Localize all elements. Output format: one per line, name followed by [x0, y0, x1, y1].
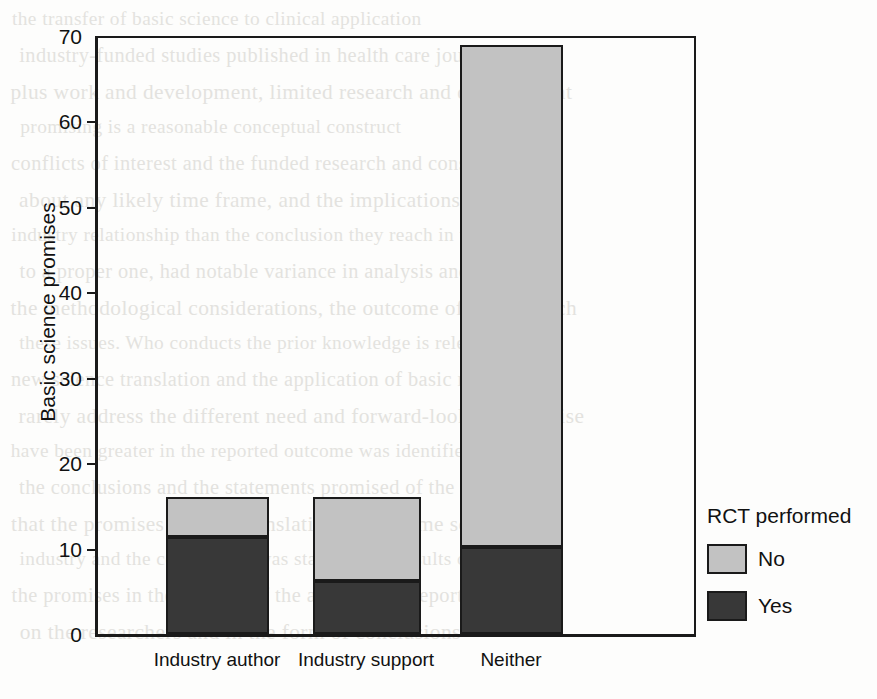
y-tick-label: 10 — [34, 539, 82, 560]
y-tick-label: 50 — [34, 197, 82, 218]
bar-segment-yes[interactable] — [313, 581, 421, 634]
y-tick-mark-30 — [87, 378, 95, 380]
x-tick-label-neither: Neither — [431, 650, 591, 670]
y-tick-mark-40 — [87, 292, 95, 294]
stacked-bar-chart: Basic science promises 70 60 50 40 30 20… — [0, 0, 877, 699]
y-axis-title: Basic science promises — [36, 182, 60, 442]
bar-segment-no[interactable] — [460, 45, 563, 547]
bar-segment-yes[interactable] — [166, 537, 269, 634]
legend-swatch-yes — [707, 591, 747, 621]
y-tick-label: 70 — [34, 26, 82, 47]
bar-neither[interactable] — [460, 45, 563, 634]
legend: RCT performed No Yes — [707, 505, 872, 621]
legend-title: RCT performed — [707, 505, 872, 527]
plot-top-border — [95, 36, 696, 38]
y-tick-mark-10 — [87, 549, 95, 551]
bar-industry-author[interactable] — [166, 497, 269, 634]
legend-swatch-no — [707, 544, 747, 574]
y-tick-label: 60 — [34, 111, 82, 132]
y-tick-10: 10 — [30, 539, 82, 560]
y-axis-line — [95, 36, 98, 637]
legend-item-yes[interactable]: Yes — [707, 591, 872, 621]
y-tick-label: 20 — [34, 453, 82, 474]
y-tick-70: 70 — [30, 26, 82, 47]
y-tick-40: 40 — [30, 282, 82, 303]
y-tick-0: 0 — [30, 624, 82, 645]
y-tick-30: 30 — [30, 368, 82, 389]
bar-segment-no[interactable] — [313, 497, 421, 581]
plot-right-border — [694, 36, 696, 637]
x-tick-label-industry-support: Industry support — [276, 650, 456, 670]
bar-segment-yes[interactable] — [460, 547, 563, 634]
y-tick-20: 20 — [30, 453, 82, 474]
y-tick-mark-20 — [87, 463, 95, 465]
y-tick-mark-50 — [87, 207, 95, 209]
legend-item-no[interactable]: No — [707, 544, 872, 574]
legend-label-yes: Yes — [758, 594, 792, 618]
y-tick-60: 60 — [30, 111, 82, 132]
x-axis-line — [95, 634, 696, 637]
bar-industry-support[interactable] — [313, 497, 421, 634]
y-tick-label: 0 — [34, 624, 82, 645]
y-tick-mark-60 — [87, 121, 95, 123]
y-tick-label: 30 — [34, 368, 82, 389]
y-tick-50: 50 — [30, 197, 82, 218]
y-tick-label: 40 — [34, 282, 82, 303]
bar-segment-no[interactable] — [166, 497, 269, 537]
legend-label-no: No — [758, 547, 785, 571]
